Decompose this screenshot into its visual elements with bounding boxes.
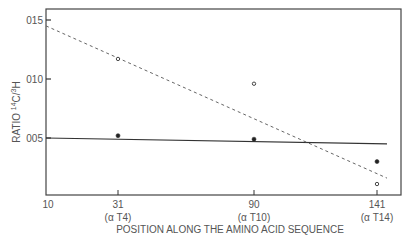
data-point-open bbox=[375, 182, 378, 185]
x-tick-label: 90 bbox=[248, 199, 260, 210]
data-point-filled bbox=[375, 160, 379, 164]
y-tick-label: 015 bbox=[26, 15, 43, 26]
plot-frame bbox=[46, 9, 401, 195]
y-axis-title-pre: RATIO bbox=[11, 110, 22, 143]
x-axis-title: POSITION ALONG THE AMINO ACID SEQUENCE bbox=[116, 224, 344, 235]
x-tick-label: 31 bbox=[112, 199, 124, 210]
y-tick-label: 005 bbox=[26, 133, 43, 144]
data-point-filled bbox=[252, 137, 256, 141]
y-axis-title-mid: C/ bbox=[11, 92, 22, 102]
x-tick-label: 141 bbox=[369, 199, 386, 210]
fit-line-open bbox=[46, 26, 387, 178]
x-tick-sublabel: (α T10) bbox=[238, 212, 270, 223]
x-tick-sublabel: (α T14) bbox=[361, 212, 393, 223]
x-tick-label: 10 bbox=[42, 199, 54, 210]
y-axis-title-sup1: 14 bbox=[10, 102, 17, 110]
chart: 005010015 1031(α T4)90(α T10)141(α T14) … bbox=[0, 0, 405, 237]
y-axis-title: RATIO 14C/3H bbox=[10, 81, 22, 143]
x-tick-sublabel: (α T4) bbox=[105, 212, 132, 223]
y-tick-label: 010 bbox=[26, 74, 43, 85]
data-point-open bbox=[252, 82, 255, 85]
fit-line-filled bbox=[46, 138, 387, 144]
data-point-open bbox=[116, 57, 119, 60]
y-axis-title-post: H bbox=[11, 81, 22, 88]
data-point-filled bbox=[116, 134, 120, 138]
